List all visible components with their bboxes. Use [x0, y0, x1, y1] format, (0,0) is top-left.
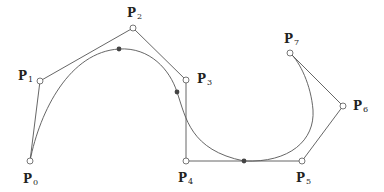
label-p0: P0 [23, 173, 38, 187]
control-point-p1 [37, 78, 43, 84]
junction-point-1 [117, 47, 122, 52]
control-point-p4 [183, 158, 189, 164]
control-point-p2 [130, 25, 136, 31]
label-p6: P6 [353, 100, 368, 114]
control-point-p6 [340, 103, 346, 109]
label-p1: P1 [18, 70, 33, 84]
junction-point-3 [242, 159, 247, 164]
label-p7: P7 [284, 33, 299, 47]
label-p4: P4 [178, 172, 193, 186]
label-p2: P2 [127, 7, 142, 21]
control-point-p0 [27, 158, 33, 164]
control-point-p5 [299, 158, 305, 164]
control-point-p3 [183, 77, 189, 83]
label-p3: P3 [197, 73, 212, 87]
control-point-p7 [287, 50, 293, 56]
label-p5: P5 [296, 172, 311, 186]
control-polygon [30, 28, 343, 161]
bezier-diagram [0, 0, 384, 192]
junction-point-2 [175, 90, 180, 95]
